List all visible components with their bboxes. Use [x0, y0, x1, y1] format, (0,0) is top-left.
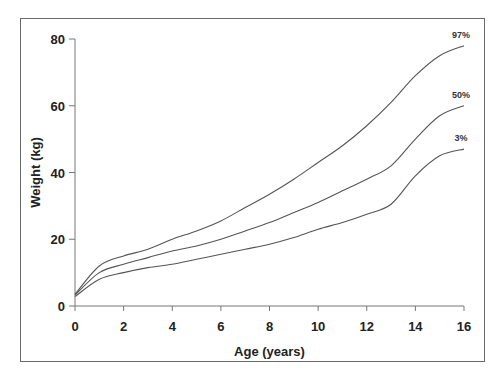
x-tick-label: 0 [71, 319, 78, 334]
x-tick-label: 6 [217, 319, 224, 334]
x-tick-label: 14 [408, 319, 423, 334]
labels: Age (years)Weight (kg)97%50%3% [28, 30, 470, 359]
percentile-line-97pct [75, 46, 464, 295]
x-tick-label: 4 [169, 319, 177, 334]
y-tick-label: 20 [51, 232, 65, 247]
x-tick-label: 8 [266, 319, 273, 334]
x-tick-label: 12 [360, 319, 374, 334]
y-tick-label: 60 [51, 99, 65, 114]
y-tick-label: 80 [51, 32, 65, 47]
series-label-50pct: 50% [452, 90, 470, 100]
y-axis-title: Weight (kg) [28, 137, 43, 208]
x-tick-label: 10 [311, 319, 325, 334]
x-tick-label: 16 [457, 319, 471, 334]
x-axis-title: Age (years) [234, 344, 305, 359]
percentile-line-50pct [75, 106, 464, 295]
series-label-97pct: 97% [452, 30, 470, 40]
axes: 0204060800246810121416 [51, 32, 472, 334]
y-tick-label: 40 [51, 166, 65, 181]
series-label-3pct: 3% [454, 133, 467, 143]
percentile-lines [75, 46, 464, 297]
growth-chart: 0204060800246810121416 Age (years)Weight… [0, 0, 504, 379]
x-tick-label: 2 [120, 319, 127, 334]
y-tick-label: 0 [58, 299, 65, 314]
